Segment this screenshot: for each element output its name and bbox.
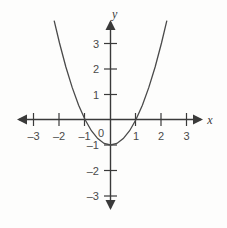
x-tick-label-1: 1 — [133, 130, 139, 142]
graph-canvas: –3 –2 –1 1 2 3 x 3 2 1 –1 –2 –3 y — [0, 0, 227, 228]
y-axis: 3 2 1 –1 –2 –3 y — [87, 7, 118, 210]
x-axis: –3 –2 –1 1 2 3 x — [17, 113, 213, 142]
x-tick-label--2: –2 — [53, 130, 65, 142]
x-axis-arrow-right — [193, 115, 203, 125]
y-tick-label--3: –3 — [87, 190, 99, 202]
origin-label: 0 — [98, 127, 104, 139]
y-tick-label-3: 3 — [93, 38, 99, 50]
x-tick-label--3: –3 — [27, 130, 39, 142]
parabola-plot: –3 –2 –1 1 2 3 x 3 2 1 –1 –2 –3 y — [0, 0, 227, 228]
x-tick-label-2: 2 — [158, 130, 164, 142]
y-axis-arrow-up — [106, 20, 116, 30]
y-axis-label: y — [111, 7, 118, 21]
y-tick-label--2: –2 — [87, 165, 99, 177]
y-tick-label--1: –1 — [87, 139, 99, 151]
x-tick-label-3: 3 — [183, 130, 189, 142]
x-axis-label: x — [206, 113, 213, 127]
y-axis-arrow-down — [106, 200, 116, 210]
y-tick-label-1: 1 — [93, 89, 99, 101]
y-tick-label-2: 2 — [93, 63, 99, 75]
x-axis-arrow-left — [17, 115, 27, 125]
